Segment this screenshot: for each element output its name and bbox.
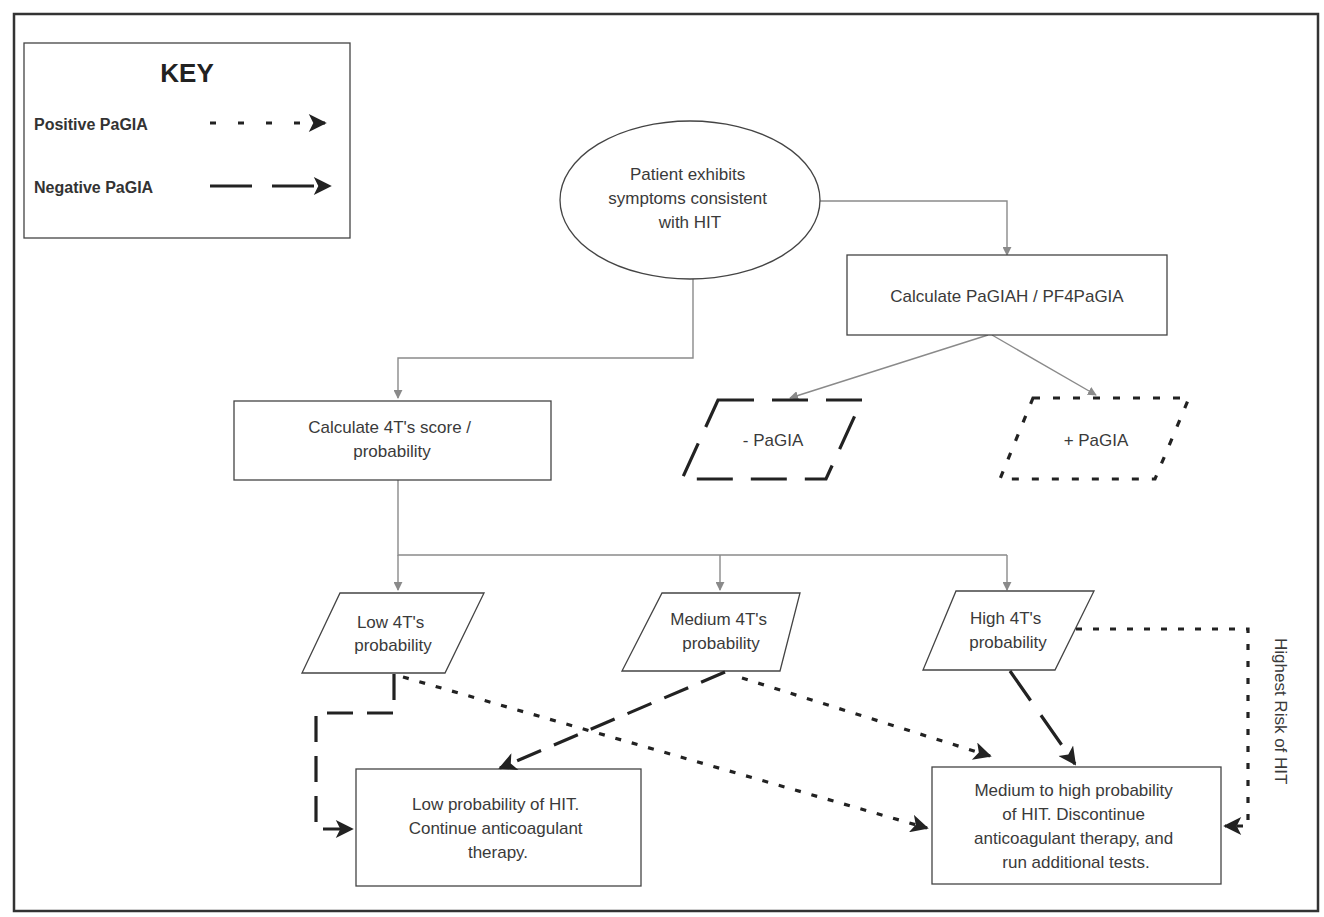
node-pagia-calc: Calculate PaGIAH / PF4PaGIA	[847, 255, 1167, 335]
node-high-outcome: Medium to high probability of HIT. Disco…	[932, 767, 1221, 884]
connector-pagia-to-neg	[790, 335, 988, 398]
legend: KEY Positive PaGIA Negative PaGIA	[24, 43, 350, 238]
node-neg-pagia: - PaGIA	[682, 400, 862, 479]
pagia-calc-text: Calculate PaGIAH / PF4PaGIA	[890, 287, 1124, 306]
arrow-high-neg-to-high-outcome	[1010, 671, 1075, 764]
neg-pagia-text: - PaGIA	[743, 431, 804, 450]
arrow-medium-neg-to-low-outcome	[500, 672, 725, 768]
legend-label-positive: Positive PaGIA	[34, 116, 148, 133]
high-4t-shape	[923, 591, 1094, 670]
node-pos-pagia: + PaGIA	[1000, 398, 1189, 479]
node-medium-4t: Medium 4T's probability	[622, 593, 800, 671]
arrow-medium-pos-to-high-outcome	[742, 678, 990, 756]
node-4t-calc: Calculate 4T's score / probability	[234, 401, 551, 480]
node-low-outcome: Low probability of HIT. Continue anticoa…	[356, 769, 641, 886]
highest-risk-label: Highest Risk of HIT	[1271, 638, 1290, 784]
node-start: Patient exhibits symptoms consistent wit…	[560, 121, 820, 279]
medium-4t-shape	[622, 593, 800, 671]
4t-calc-box	[234, 401, 551, 480]
low-4t-shape	[302, 593, 484, 673]
pos-pagia-text: + PaGIA	[1064, 431, 1129, 450]
legend-label-negative: Negative PaGIA	[34, 179, 154, 196]
connector-start-to-4t	[398, 278, 693, 398]
connector-start-to-pagia	[820, 201, 1007, 255]
legend-title: KEY	[160, 58, 213, 88]
connector-4t-trunk	[398, 479, 1007, 555]
connector-pagia-to-pos	[992, 335, 1096, 395]
hit-flowchart: KEY Positive PaGIA Negative PaGIA Patien…	[0, 0, 1324, 917]
node-low-4t: Low 4T's probability	[302, 593, 484, 673]
node-high-4t: High 4T's probability	[923, 591, 1094, 670]
